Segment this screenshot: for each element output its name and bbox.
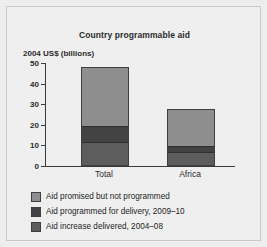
legend-swatch-programmed-icon bbox=[31, 207, 41, 217]
legend-swatch-promised-icon bbox=[31, 192, 41, 202]
x-tick-label-africa: Africa bbox=[155, 169, 225, 179]
bar-total-segment-delivered[interactable] bbox=[82, 143, 128, 165]
chart-legend: Aid promised but not programmed Aid prog… bbox=[31, 189, 256, 234]
bar-total-segment-promised[interactable] bbox=[82, 68, 128, 127]
x-axis-line bbox=[45, 166, 235, 167]
x-tick-label-total: Total bbox=[69, 169, 139, 179]
bar-africa[interactable] bbox=[167, 109, 215, 166]
bar-africa-segment-delivered[interactable] bbox=[168, 153, 214, 165]
bar-africa-segment-promised[interactable] bbox=[168, 110, 214, 146]
chart-title: Country programmable aid bbox=[7, 30, 262, 40]
legend-item-delivered[interactable]: Aid increase delivered, 2004–08 bbox=[31, 219, 256, 234]
y-tick-label-10: 10 bbox=[30, 141, 39, 150]
bar-total-segment-programmed[interactable] bbox=[82, 127, 128, 143]
figure-container: Country programmable aid 2004 US$ (billi… bbox=[0, 0, 267, 247]
legend-label-delivered: Aid increase delivered, 2004–08 bbox=[46, 222, 163, 231]
plot-area: 0 10 20 30 40 50 bbox=[45, 63, 235, 167]
legend-swatch-delivered-icon bbox=[31, 222, 41, 232]
y-axis-line bbox=[45, 63, 46, 167]
y-tick-label-20: 20 bbox=[30, 120, 39, 129]
y-tick-label-40: 40 bbox=[30, 79, 39, 88]
y-tick-label-30: 30 bbox=[30, 100, 39, 109]
y-axis-label: 2004 US$ (billions) bbox=[23, 49, 94, 58]
legend-item-promised[interactable]: Aid promised but not programmed bbox=[31, 189, 256, 204]
legend-label-promised: Aid promised but not programmed bbox=[46, 192, 170, 201]
chart-frame: Country programmable aid 2004 US$ (billi… bbox=[6, 6, 261, 241]
bar-total[interactable] bbox=[81, 67, 129, 166]
y-tick-label-0: 0 bbox=[35, 162, 39, 171]
y-tick-label-50: 50 bbox=[30, 59, 39, 68]
legend-label-programmed: Aid programmed for delivery, 2009–10 bbox=[46, 207, 185, 216]
legend-item-programmed[interactable]: Aid programmed for delivery, 2009–10 bbox=[31, 204, 256, 219]
